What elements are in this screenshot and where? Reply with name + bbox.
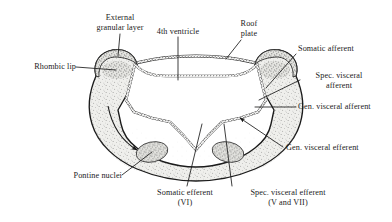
- label-roof-plate: Roof plate: [241, 19, 258, 38]
- label-fourth-ventricle: 4th ventricle: [157, 27, 199, 37]
- label-spec-visceral-efferent: Spec. visceral efferent (V and VII): [250, 188, 325, 207]
- label-external-granular-layer: External granular layer: [96, 13, 143, 32]
- pons-section-body: [89, 50, 303, 181]
- label-somatic-afferent: Somatic afferent: [298, 44, 354, 54]
- anatomy-figure: External granular layer 4th ventricle Ro…: [0, 0, 392, 222]
- label-gen-visceral-afferent: Gen. visceral afferent: [298, 102, 371, 112]
- label-pontine-nuclei: Pontine nuclei: [74, 171, 122, 181]
- label-somatic-efferent: Somatic efferent (VI): [157, 188, 213, 207]
- label-spec-visceral-afferent: Spec. visceral afferent: [316, 71, 363, 90]
- roof-plate-ependyma-texture: [136, 56, 256, 63]
- leader-roof-plate: [226, 40, 241, 59]
- label-rhombic-lip: Rhombic lip: [34, 62, 76, 72]
- rhombic-lip-right: [260, 61, 290, 79]
- label-gen-visceral-efferent: Gen. visceral efferent: [286, 143, 359, 153]
- rhombic-lip-left: [102, 61, 132, 79]
